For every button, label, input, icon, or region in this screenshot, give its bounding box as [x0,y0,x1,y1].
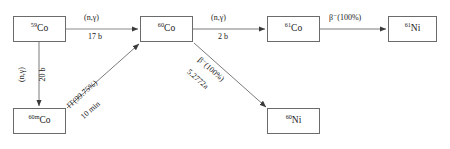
node-cobalt-59: 59Co [13,16,66,42]
edge-value-co59-to-co60: 17 b [88,32,102,41]
edge-reaction-co61-to-ni61: β⁻(100%) [329,13,361,22]
mass-number-cobalt-60m: 60m [28,113,39,120]
node-cobalt-60m: 60mCo [13,108,66,134]
symbol-nickel-60: Ni [292,115,302,125]
arrow-co60-to-ni60 [194,43,266,107]
node-label-nickel-61: 61Ni [405,24,421,34]
symbol-nickel-61: Ni [411,23,421,33]
symbol-cobalt-59: Co [37,23,48,33]
edge-value-co60-to-co61: 2 b [218,32,228,41]
edge-reaction-co60-to-co61: (n,γ) [211,13,226,22]
edge-value-co59-to-co60m: 20 b [38,68,47,82]
node-nickel-60: 60Ni [267,108,320,134]
node-label-cobalt-59: 59Co [31,24,48,34]
node-nickel-61: 61Ni [388,16,437,42]
node-label-cobalt-61: 61Co [285,24,302,34]
edge-reaction-co59-to-co60m: (n,γ) [17,67,26,82]
node-cobalt-61: 61Co [267,16,320,42]
node-label-cobalt-60: 60Co [158,24,175,34]
node-cobalt-60: 60Co [140,16,193,42]
symbol-cobalt-60m: Co [39,115,50,125]
node-label-nickel-60: 60Ni [286,116,302,126]
symbol-cobalt-61: Co [291,23,302,33]
edge-reaction-co59-to-co60: (n,γ) [84,13,99,22]
symbol-cobalt-60: Co [164,23,175,33]
decay-chain-diagram: 59Co 60mCo 60Co 61Co 61Ni 60Ni (n,γ) 17 … [0,0,450,149]
node-label-cobalt-60m: 60mCo [28,116,50,126]
